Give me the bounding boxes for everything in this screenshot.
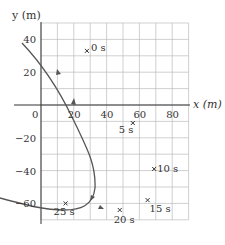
y-tick-label: −40 [15, 166, 36, 177]
trajectory-plot: 0 s5 s10 s15 s20 s25 s 0204060804020−20−… [0, 0, 225, 245]
direction-arrow [90, 195, 95, 201]
x-tick-label: 0 [32, 109, 38, 120]
direction-arrow [71, 98, 76, 105]
tick-labels: 0204060804020−20−40−60 [15, 34, 179, 209]
x-tick-label: 60 [133, 109, 146, 120]
y-tick-label: −60 [15, 198, 36, 209]
y-tick-label: −20 [15, 133, 36, 144]
time-marker-icon [146, 198, 150, 202]
time-label: 10 s [157, 163, 178, 174]
time-label: 5 s [119, 124, 134, 135]
y-axis-label: y (m) [11, 9, 41, 22]
time-marker-icon [85, 49, 89, 53]
time-label: 15 s [150, 203, 171, 214]
x-axis-label: x (m) [193, 98, 222, 111]
trajectory-curve [0, 43, 95, 210]
x-tick-label: 20 [68, 109, 81, 120]
time-marker-icon [118, 208, 122, 212]
y-tick-label: 20 [23, 67, 36, 78]
direction-arrow [98, 205, 104, 209]
x-tick-label: 40 [101, 109, 114, 120]
time-label: 20 s [114, 214, 135, 225]
grid [41, 23, 189, 220]
y-tick-label: 40 [23, 34, 36, 45]
time-label: 25 s [54, 206, 75, 217]
time-markers: 0 s5 s10 s15 s20 s25 s [54, 42, 179, 225]
x-tick-label: 80 [166, 109, 179, 120]
time-label: 0 s [91, 42, 106, 53]
